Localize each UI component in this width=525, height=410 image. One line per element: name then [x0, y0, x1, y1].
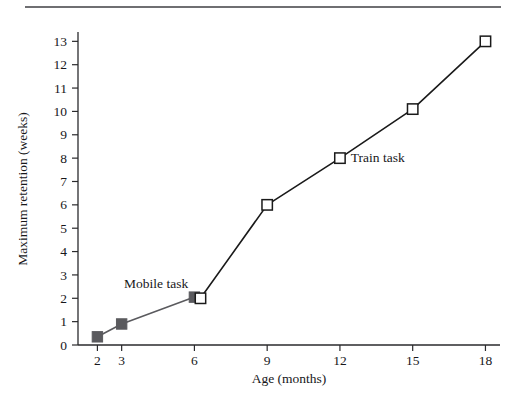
x-tick-label: 3 [118, 353, 125, 368]
y-tick-label: 8 [60, 151, 67, 166]
data-point-filled-square [116, 319, 126, 329]
x-tick-label: 12 [333, 353, 347, 368]
y-tick-label: 6 [60, 197, 67, 212]
series-annotations: Mobile taskTrain task [124, 150, 405, 291]
y-tick-label: 1 [60, 314, 67, 329]
retention-line-chart: 012345678910111213 2369121518 Mobile tas… [0, 0, 525, 410]
y-tick-label: 4 [60, 244, 67, 259]
y-tick-label: 7 [60, 174, 67, 189]
y-tick-label: 0 [60, 338, 67, 353]
x-tick-label: 6 [191, 353, 198, 368]
annotation-train-task: Train task [351, 150, 405, 165]
y-axis-ticks: 012345678910111213 [54, 34, 79, 353]
x-tick-label: 2 [94, 353, 101, 368]
x-tick-label: 9 [264, 353, 271, 368]
x-axis-ticks: 2369121518 [94, 345, 492, 368]
x-axis-title: Age (months) [252, 371, 327, 386]
y-tick-label: 13 [54, 34, 68, 49]
series-line-train-task [200, 41, 485, 298]
y-tick-label: 5 [60, 221, 67, 236]
y-tick-label: 11 [54, 81, 67, 96]
data-point-open-square [195, 293, 205, 303]
x-tick-label: 15 [406, 353, 420, 368]
data-point-open-square [480, 36, 490, 46]
y-axis-title: Maximum retention (weeks) [15, 112, 30, 266]
y-tick-label: 10 [54, 104, 68, 119]
data-point-open-square [335, 153, 345, 163]
y-tick-label: 3 [60, 268, 67, 283]
data-point-filled-square [92, 332, 102, 342]
y-tick-label: 12 [54, 57, 68, 72]
x-tick-label: 18 [479, 353, 493, 368]
y-tick-label: 2 [60, 291, 67, 306]
data-point-open-square [262, 200, 272, 210]
axes [78, 32, 500, 345]
annotation-mobile-task: Mobile task [124, 276, 188, 291]
data-point-open-square [407, 104, 417, 114]
y-tick-label: 9 [60, 127, 67, 142]
chart-page: 012345678910111213 2369121518 Mobile tas… [0, 0, 525, 410]
series-line-mobile-task [97, 297, 194, 337]
data-series [92, 36, 490, 342]
